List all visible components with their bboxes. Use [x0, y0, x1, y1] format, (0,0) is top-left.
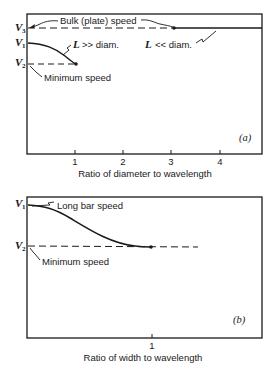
panel-b-min-speed-leader — [30, 248, 40, 260]
panel-b-min-speed-label: Minimum speed — [42, 256, 109, 267]
figure-canvas: 1 2 3 4 Ratio of diameter to wavelength … — [0, 0, 277, 373]
panel-b-tick-1: 1 — [149, 340, 154, 351]
panel-a-v3-sub: 3 — [22, 27, 26, 35]
panel-b: 1 Ratio of width to wavelength V 1 V 2 L… — [15, 197, 262, 363]
panel-b-frame — [27, 197, 262, 338]
l-less-symbol: L — [144, 38, 152, 50]
l-greater-leader — [63, 45, 71, 55]
l-less-label: << diam. — [155, 39, 192, 50]
panel-a-tick-3: 3 — [168, 156, 173, 167]
panel-b-xlabel: Ratio of width to wavelength — [84, 352, 203, 363]
l-less-leader — [196, 31, 216, 43]
panel-a-tag: (a) — [239, 132, 252, 144]
panel-a-tick-2: 2 — [120, 156, 125, 167]
l-greater-symbol: L — [72, 38, 80, 50]
long-bar-speed-label: Long bar speed — [57, 200, 123, 211]
panel-b-v2-sub: 2 — [22, 245, 26, 253]
bulk-speed-leader-left — [33, 21, 58, 27]
panel-b-v1-sub: 1 — [22, 203, 26, 211]
bulk-speed-label: Bulk (plate) speed — [60, 15, 137, 26]
panel-a-tick-1: 1 — [72, 156, 77, 167]
panel-b-min-speed-dashed-line — [28, 246, 198, 247]
panel-b-tag: (b) — [233, 314, 246, 326]
panel-a-v1-sub: 1 — [22, 42, 26, 50]
long-bar-speed-leader — [32, 202, 54, 206]
bulk-speed-leader-right — [141, 20, 173, 27]
panel-b-speed-curve — [28, 205, 151, 247]
panel-a: 1 2 3 4 Ratio of diameter to wavelength … — [15, 14, 262, 179]
bulk-speed-arrowhead-left — [29, 24, 35, 28]
panel-a-v2-sub: 2 — [22, 62, 26, 70]
panel-a-frame — [27, 14, 262, 154]
panel-a-min-speed-leader — [30, 66, 42, 77]
panel-a-min-speed-label: Minimum speed — [44, 72, 111, 83]
l-greater-label: >> diam. — [82, 39, 119, 50]
panel-a-xlabel: Ratio of diameter to wavelength — [78, 168, 212, 179]
panel-a-tick-4: 4 — [217, 156, 222, 167]
